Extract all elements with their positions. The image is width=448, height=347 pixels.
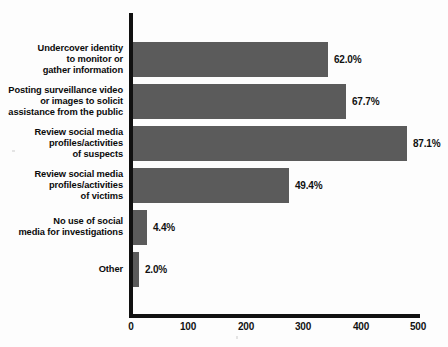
bar-row: Review social media profiles/activities … [0, 126, 448, 161]
bar-row: Other2.0% [0, 252, 448, 287]
bar-category-label: Posting surveillance video or images to … [0, 85, 123, 119]
bars-layer: Undercover identity to monitor or gather… [0, 0, 448, 347]
x-tick-label: 100 [168, 321, 208, 332]
bar-value-label: 87.1% [413, 138, 440, 149]
bar-row: Undercover identity to monitor or gather… [0, 42, 448, 77]
bar-category-label: Other [0, 264, 123, 275]
bar [133, 252, 139, 287]
bar-category-label: Review social media profiles/activities … [0, 127, 123, 161]
x-tick-label: 200 [226, 321, 266, 332]
bar-value-label: 49.4% [295, 180, 322, 191]
bar-value-label: 67.7% [352, 96, 379, 107]
bar-chart: Undercover identity to monitor or gather… [0, 0, 448, 347]
bar [133, 168, 289, 203]
bar-category-label: Undercover identity to monitor or gather… [0, 43, 123, 77]
scan-speck [236, 336, 238, 339]
x-tick-label: 0 [111, 321, 151, 332]
bar [133, 84, 346, 119]
x-tick-label: 400 [341, 321, 381, 332]
bar-value-label: 62.0% [334, 54, 361, 65]
bar [133, 126, 407, 161]
x-tick-label: 500 [398, 321, 438, 332]
scan-speck [12, 150, 15, 152]
bar [133, 42, 328, 77]
bar-category-label: No use of social media for investigation… [0, 216, 123, 238]
x-tick-label: 300 [283, 321, 323, 332]
bar [133, 210, 147, 245]
plot-area: Undercover identity to monitor or gather… [0, 0, 448, 347]
bar-row: Review social media profiles/activities … [0, 168, 448, 203]
bar-value-label: 2.0% [145, 264, 167, 275]
bar-category-label: Review social media profiles/activities … [0, 169, 123, 203]
bar-row: Posting surveillance video or images to … [0, 84, 448, 119]
bar-value-label: 4.4% [153, 222, 175, 233]
bar-row: No use of social media for investigation… [0, 210, 448, 245]
